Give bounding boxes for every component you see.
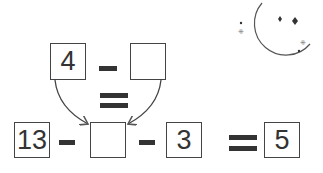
top-left-number-box: 4 [50, 43, 86, 80]
sparkle-icon: ⁜ [300, 39, 306, 47]
crescent-moon-icon: ⁜ ⁜ [238, 3, 310, 55]
bottom-number-box-3: 3 [166, 122, 202, 158]
star-icon [292, 17, 298, 25]
dot-icon [240, 22, 242, 24]
dot-icon [298, 50, 300, 52]
sparkle-icon: ⁜ [238, 28, 244, 36]
top-minus-sign [99, 66, 117, 71]
middle-equals-top-bar [100, 93, 128, 98]
star-icon [278, 16, 282, 22]
bottom-minus-sign-2 [139, 140, 155, 145]
right-arrow [128, 80, 161, 124]
top-right-empty-box[interactable] [130, 43, 166, 80]
middle-equals-bottom-bar [100, 103, 128, 108]
result-number-box-5: 5 [264, 122, 300, 158]
bottom-number-box-13: 13 [14, 122, 50, 158]
left-arrow [55, 80, 88, 124]
bottom-equals-bottom-bar [229, 146, 257, 151]
bottom-minus-sign-1 [59, 140, 75, 145]
bottom-middle-empty-box[interactable] [90, 122, 126, 158]
bottom-equals-top-bar [229, 135, 257, 140]
